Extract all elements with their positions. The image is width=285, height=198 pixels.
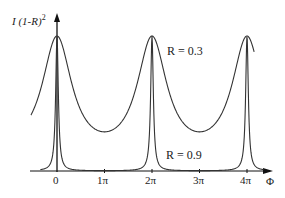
y-axis-label-exp: 2 bbox=[42, 13, 46, 22]
annotation-r03: R = 0.3 bbox=[167, 44, 203, 59]
tick-label-3pi: 3π bbox=[193, 174, 204, 186]
plot-area bbox=[0, 0, 285, 198]
x-axis-arrow-icon bbox=[263, 168, 273, 174]
series-r09 bbox=[40, 36, 263, 171]
y-axis-label-text: I (1-R) bbox=[12, 15, 42, 27]
tick-label-2pi: 2π bbox=[145, 174, 156, 186]
tick-label-4pi: 4π bbox=[240, 174, 251, 186]
series-r03 bbox=[31, 36, 254, 132]
tick-label-0: 0 bbox=[53, 174, 59, 186]
annotation-r09-text: R = 0.9 bbox=[166, 148, 202, 162]
tick-label-1pi: 1π bbox=[97, 174, 108, 186]
annotation-r03-text: R = 0.3 bbox=[167, 44, 203, 58]
annotation-r09: R = 0.9 bbox=[166, 148, 202, 163]
x-axis-label: Φ bbox=[266, 175, 274, 187]
y-axis-arrow-icon bbox=[54, 13, 60, 22]
y-axis-label: I (1-R)2 bbox=[12, 13, 46, 27]
